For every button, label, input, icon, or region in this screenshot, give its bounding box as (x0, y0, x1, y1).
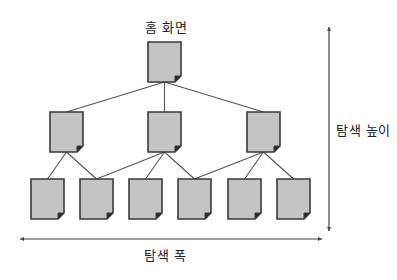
hierarchy-edge (67, 82, 165, 112)
navigation-width-label: 탐색 폭 (144, 245, 186, 264)
page-icon (31, 179, 64, 219)
hierarchy-edge (165, 152, 195, 179)
page-icon (178, 179, 211, 219)
page-icon (228, 179, 261, 219)
page-icon (247, 112, 280, 152)
hierarchy-edge (264, 152, 294, 179)
page-icon (148, 42, 181, 82)
page-icon (277, 179, 310, 219)
height-arrow (327, 27, 331, 231)
page-nodes (31, 42, 310, 219)
page-icon (129, 179, 162, 219)
page-icon (80, 179, 113, 219)
page-icon (148, 112, 181, 152)
hierarchy-edge (195, 152, 264, 179)
site-structure-diagram (0, 0, 397, 280)
hierarchy-edge (165, 82, 264, 112)
hierarchy-edge (67, 152, 97, 179)
page-icon (50, 112, 83, 152)
navigation-height-label: 탐색 높이 (336, 120, 391, 139)
home-screen-label: 홈 화면 (145, 17, 187, 36)
width-arrow (20, 237, 322, 241)
hierarchy-edge (97, 152, 165, 179)
hierarchy-edge (48, 152, 67, 179)
